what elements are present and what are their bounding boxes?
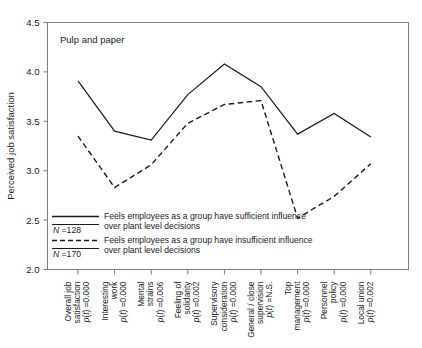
series-sufficient-influence-line xyxy=(78,64,371,140)
legend-label-sufficient-line1: Feels employees as a group have sufficie… xyxy=(104,211,306,221)
x-category-pvalue: p(t) =0.000 xyxy=(81,281,91,323)
legend-label-sufficient-line2: over plant level decisions xyxy=(104,221,200,231)
x-axis-category-labels: Overall jobsatisfactionp(t) =0.000Intere… xyxy=(63,281,375,338)
perceived-job-satisfaction-line-chart: 2.02.53.03.54.04.5 Perceived job satisfa… xyxy=(0,0,422,348)
x-category-pvalue: p(t) =0.000 xyxy=(301,281,311,323)
x-category-pvalue: p(t) =0.002 xyxy=(191,281,201,323)
y-axis-title: Perceived job satisfaction xyxy=(5,92,16,200)
legend-label-insufficient-line1: Feels employees as a group have insuffic… xyxy=(104,235,313,245)
y-tick-label: 3.0 xyxy=(26,165,39,176)
y-tick-label: 4.0 xyxy=(26,66,39,77)
legend-entry-insufficient: N =170 Feels employees as a group have i… xyxy=(52,235,313,259)
plot-frame xyxy=(48,23,409,270)
x-category-pvalue: p(t) =0.002 xyxy=(365,281,375,323)
legend-n-sufficient: N =128 xyxy=(53,225,81,235)
x-category-pvalue: p(t) =0.006 xyxy=(155,281,165,323)
x-category-pvalue: p(t) =0.000 xyxy=(338,281,348,323)
data-series-group xyxy=(78,64,371,218)
x-category-pvalue: p(t) =0.000 xyxy=(228,281,238,323)
x-category-pvalue: p(t) =0.000 xyxy=(118,281,128,323)
plot-title: Pulp and paper xyxy=(60,34,124,45)
chart-legend: N =128 Feels employees as a group have s… xyxy=(52,211,313,259)
x-category-pvalue: p(t) =N.S. xyxy=(264,282,274,319)
y-axis: 2.02.53.03.54.04.5 xyxy=(26,17,47,275)
y-tick-label: 2.5 xyxy=(26,215,39,226)
chart-container: 2.02.53.03.54.04.5 Perceived job satisfa… xyxy=(0,0,422,348)
y-tick-label: 3.5 xyxy=(26,116,39,127)
y-tick-label: 2.0 xyxy=(26,264,39,275)
y-tick-label: 4.5 xyxy=(26,17,39,28)
legend-n-insufficient: N =170 xyxy=(53,249,81,259)
x-axis xyxy=(78,270,371,275)
legend-entry-sufficient: N =128 Feels employees as a group have s… xyxy=(52,211,306,235)
legend-label-insufficient-line2: over plant level decisions xyxy=(104,245,200,255)
